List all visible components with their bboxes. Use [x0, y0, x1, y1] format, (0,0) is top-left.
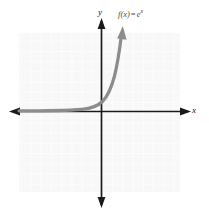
function-equation-label: f(x)=ex [118, 8, 143, 18]
function-variable: x [123, 9, 127, 19]
function-exponent: x [140, 8, 143, 14]
curve-arrowhead [117, 26, 126, 40]
y-axis-label: y [98, 8, 102, 17]
y-axis-bottom-arrowhead [98, 197, 106, 208]
exponential-function-figure: y x f(x)=ex [0, 0, 209, 214]
x-axis-label: x [192, 106, 196, 115]
y-axis-top-arrowhead [98, 18, 106, 29]
equals-sign: = [130, 9, 137, 19]
function-name: f [118, 9, 120, 19]
grid-region [19, 33, 180, 192]
plot-canvas [0, 0, 209, 214]
x-axis-right-arrowhead [180, 108, 191, 116]
